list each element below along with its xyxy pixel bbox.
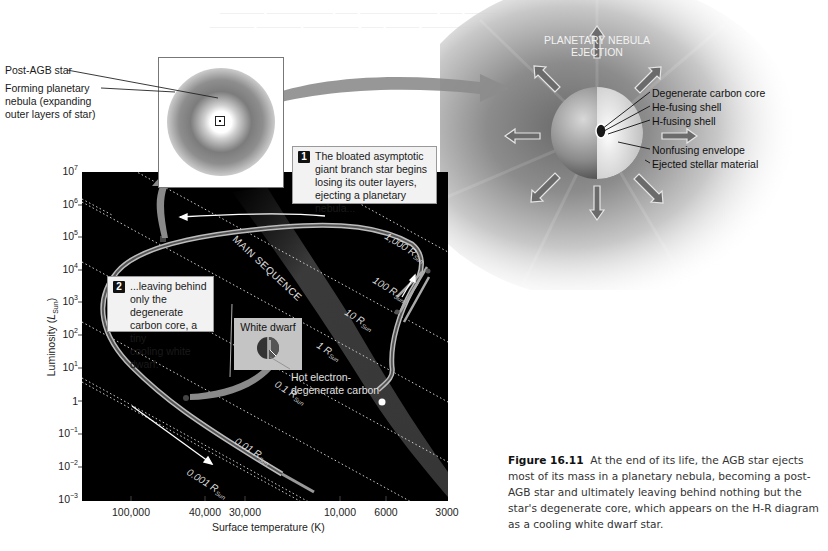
nebula-title-line2: EJECTION	[571, 46, 623, 58]
label-nonfusing-envelope: Nonfusing envelope	[652, 144, 745, 156]
figure-caption: Figure 16.11 At the end of its life, the…	[508, 452, 828, 532]
step-1-callout: 1 The bloated asymptotic giant branch st…	[292, 146, 437, 204]
label-h-fusing-shell: H-fusing shell	[652, 115, 716, 127]
x-tick-6000: 6000	[374, 506, 397, 518]
y-axis-title: Luminosity (LSun)	[45, 277, 59, 397]
y-tick-1e7: 107	[38, 164, 78, 177]
step-2-callout: 2 ...leaving behind only the degenerate …	[107, 276, 214, 332]
x-axis-title: Surface temperature (K)	[212, 521, 325, 533]
label-degenerate-core: Degenerate carbon core	[652, 87, 765, 99]
x-tick-100000: 100,000	[112, 506, 150, 518]
step-2-line: cooling white dwarf.	[130, 345, 207, 371]
y-tick-1e-3: 10−3	[38, 492, 78, 505]
hot-degenerate-carbon-1: Hot electron-	[291, 371, 351, 384]
label-ejected-material: Ejected stellar material	[652, 158, 758, 170]
step-1-badge: 1	[298, 151, 310, 163]
nebula-title-line1: PLANETARY NEBULA	[544, 34, 650, 46]
step-1-line: ejecting a planetary nebula...	[315, 189, 430, 215]
nebula-leader-lines	[0, 0, 240, 140]
y-tick-1e-2: 10−2	[38, 459, 78, 472]
hot-degenerate-carbon-2: degenerate carbon	[291, 384, 379, 397]
step-2-line: only the degenerate	[130, 293, 207, 319]
step-2-line: ...leaving behind	[130, 280, 207, 293]
x-tick-30000: 30,000	[229, 506, 261, 518]
y-tick-1e5: 105	[38, 229, 78, 242]
star-illustration: PLANETARY NEBULA EJECTION	[440, 0, 828, 290]
white-dwarf-title: White dwarf	[234, 321, 302, 333]
step-1-line: The bloated asymptotic	[315, 150, 430, 163]
x-tick-40000: 40,000	[189, 506, 221, 518]
step-1-line: losing its outer layers,	[315, 176, 430, 189]
step-1-line: giant branch star begins	[315, 163, 430, 176]
y-tick-1e-1: 10−1	[38, 426, 78, 439]
label-he-fusing-shell: He-fusing shell	[652, 101, 721, 113]
y-tick-1e6: 106	[38, 197, 78, 210]
x-tick-10000: 10,000	[324, 506, 356, 518]
step-2-badge: 2	[113, 281, 125, 293]
step-2-line: carbon core, a tiny	[130, 319, 207, 345]
y-tick-1e4: 104	[38, 262, 78, 275]
figure-number: Figure 16.11	[508, 454, 584, 466]
x-tick-3000: 3000	[435, 506, 458, 518]
